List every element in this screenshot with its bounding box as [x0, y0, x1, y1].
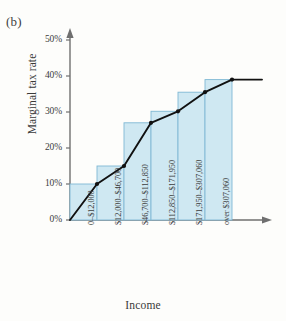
y-tick-label: 10% [22, 178, 62, 188]
y-tick-label: 0% [22, 214, 62, 224]
x-axis-title: Income [0, 299, 286, 311]
x-tick-label: $12,000–$46,700 [114, 168, 123, 225]
data-point-marker [176, 109, 180, 113]
figure-panel-b: (b) 0%10%20%30%40%50% 0–$12,000$12,000–$… [0, 0, 286, 321]
x-axis-arrowhead [262, 216, 272, 223]
x-tick-label: over $307,060 [222, 178, 231, 225]
chart-canvas [0, 0, 286, 321]
data-point-marker [149, 121, 153, 125]
chart-plot-area: 0%10%20%30%40%50% 0–$12,000$12,000–$46,7… [0, 0, 286, 321]
x-tick-label: $171,950–$307,060 [195, 160, 204, 225]
data-point-marker [203, 90, 207, 94]
y-axis-title: Marginal tax rate [26, 24, 38, 164]
x-tick-label: $46,700–$112,850 [141, 164, 150, 225]
y-axis-arrowhead [66, 28, 73, 38]
data-point-marker [95, 182, 99, 186]
x-tick-label: $112,850–$171,950 [168, 160, 177, 225]
data-point-marker [230, 78, 234, 82]
x-tick-label: 0–$12,000 [87, 190, 96, 225]
